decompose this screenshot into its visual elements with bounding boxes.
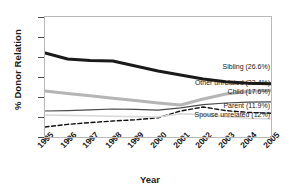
plot-area [44,16,272,138]
x-tick-mark [271,138,272,142]
series-label-parent: Parent (11.9%) [0,102,270,109]
x-tick-mark [203,138,204,142]
x-tick-mark [135,138,136,142]
series-label-sibling: Sibling (26.6%) [0,63,270,70]
x-tick-mark [248,138,249,142]
series-label-spouse-unrelated: Spouse unrelated (12%) [0,111,270,118]
x-tick-mark [181,138,182,142]
chart-figure: % Donor Relation Year 0102030405060 1995… [0,0,300,194]
x-tick-mark [226,138,227,142]
series-label-child: Child (17.6%) [0,88,270,95]
x-axis-title: Year [0,174,300,185]
series-lines [45,17,271,137]
x-tick-mark [68,138,69,142]
x-tick-mark [113,138,114,142]
x-tick-mark [158,138,159,142]
x-tick-mark [45,138,46,142]
x-tick-mark [90,138,91,142]
series-label-other-unrelated: Other unrelated (23.4%) [0,79,270,86]
